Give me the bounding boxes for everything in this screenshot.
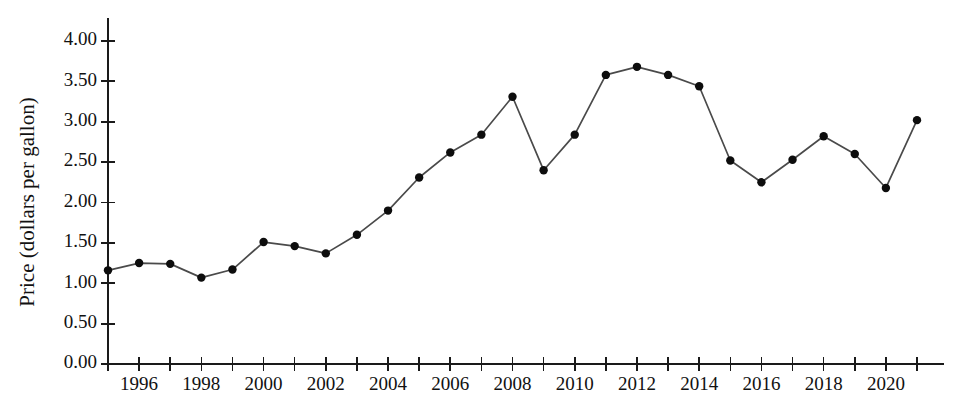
data-point: 2009: 2.40 [539,166,547,174]
data-point: 2001: 1.46 [290,242,298,250]
data-series-points: 1995: 1.161996: 1.251997: 1.241998: 1.07… [104,63,921,282]
data-point: 2010: 2.84 [571,130,579,138]
y-tick-label: 3.00 [64,109,97,130]
y-tick-label: 0.50 [64,311,97,332]
data-point: 2017: 2.53 [788,156,796,164]
x-tick-label: 2008 [494,373,532,394]
data-point: 2011: 3.58 [602,71,610,79]
y-tick-label: 1.00 [64,271,97,292]
data-point: 1995: 1.16 [104,266,112,274]
data-point: 2015: 2.52 [726,156,734,164]
y-tick-label: 1.50 [64,230,97,251]
y-tick-label: 4.00 [64,28,97,49]
y-tick-labels: 0.000.501.001.502.002.503.003.504.00 [64,28,97,372]
y-tick-label: 2.50 [64,149,97,170]
x-tick-label: 1996 [120,373,158,394]
x-tick-label: 2016 [742,373,780,394]
data-point: 1998: 1.07 [197,273,205,281]
y-tick-label: 2.00 [64,190,97,211]
data-point: 2008: 3.31 [508,93,516,101]
x-tick-label: 2018 [805,373,843,394]
x-tick-label: 2014 [680,373,719,394]
y-axis-title-group: Price (dollars per gallon) [15,97,39,306]
line-chart: Price (dollars per gallon) 0.000.501.001… [0,0,964,404]
x-tick-label: 2000 [245,373,283,394]
data-point: 1997: 1.24 [166,260,174,268]
x-tick-label: 2020 [867,373,905,394]
data-point: 1996: 1.25 [135,259,143,267]
data-point: 2020: 2.18 [882,184,890,192]
x-tick-label: 2006 [431,373,469,394]
y-tick-label: 3.50 [64,69,97,90]
data-point: 2003: 1.60 [353,231,361,239]
data-point: 2013: 3.58 [664,71,672,79]
data-point: 1999: 1.17 [228,265,236,273]
data-point: 2004: 1.90 [384,206,392,214]
data-point: 2007: 2.84 [477,130,485,138]
data-point: 2016: 2.25 [757,178,765,186]
x-tick-label: 1998 [182,373,220,394]
y-tick-label: 0.00 [64,351,97,372]
data-point: 2021: 3.02 [913,116,921,124]
x-tick-label: 2010 [556,373,594,394]
x-tick-label: 2002 [307,373,345,394]
data-point: 2012: 3.68 [633,63,641,71]
data-point: 2000: 1.51 [259,238,267,246]
x-tick-labels: 1996199820002002200420062008201020122014… [120,373,905,394]
data-point: 2006: 2.62 [446,148,454,156]
data-point: 2019: 2.60 [851,150,859,158]
x-tick-label: 2012 [618,373,656,394]
data-point: 2014: 3.44 [695,82,703,90]
chart-canvas: Price (dollars per gallon) 0.000.501.001… [0,0,964,404]
y-axis-title: Price (dollars per gallon) [15,97,39,306]
data-point: 2002: 1.37 [322,249,330,257]
data-point: 2005: 2.31 [415,173,423,181]
x-tick-label: 2004 [369,373,408,394]
data-point: 2018: 2.82 [819,132,827,140]
